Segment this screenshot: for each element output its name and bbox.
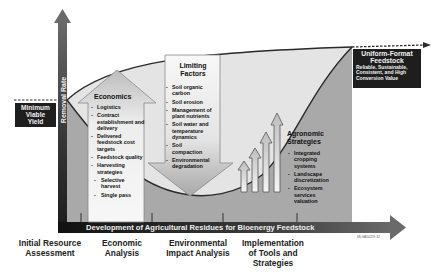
economics-item: Logistics: [91, 104, 147, 110]
agronomic-title: Agronomic Strategies: [287, 130, 324, 146]
limiting-factors-title: Limiting Factors: [168, 62, 218, 78]
limiting-title-line-2: Factors: [168, 70, 218, 78]
uniform-title-line-1: Uniform-Format: [353, 50, 421, 57]
stage-line: Implementation: [238, 238, 308, 248]
agronomic-title-line-2: Strategies: [287, 138, 324, 146]
limiting-factor-item: Management of plant nutrients: [166, 107, 221, 120]
uniform-format-feedstock-box: Uniform-Format Feedstock Reliable, Susta…: [353, 49, 421, 88]
limiting-title-line-1: Limiting: [168, 62, 218, 70]
minimum-yield-line-1: Minimum: [15, 104, 56, 111]
dotted-arrowhead: [423, 42, 431, 48]
stage-environmental-impact-analysis: Environmental Impact Analysis: [158, 238, 238, 258]
agronomic-item: Ecosystem services valuation: [288, 185, 328, 204]
limiting-factor-item: Soil compaction: [166, 142, 210, 155]
economics-item: Delivered feedstock cost targets: [91, 133, 147, 152]
economics-sub-item: Single pass: [91, 192, 147, 198]
y-axis-arrowhead: [54, 9, 71, 23]
y-axis-label: Removal Rate: [59, 77, 66, 123]
stage-line: Economic: [92, 238, 152, 248]
stage-line: of Tools and: [238, 248, 308, 258]
economics-item: Contract establishment and delivery: [91, 112, 147, 131]
stage-implementation: Implementation of Tools and Strategies: [238, 238, 308, 268]
economics-list: Logistics Contract establishment and del…: [91, 104, 147, 200]
stage-line: Assessment: [10, 248, 90, 258]
stage-line: Analysis: [92, 248, 152, 258]
stage-economic-analysis: Economic Analysis: [92, 238, 152, 258]
agronomic-item: Landscape discretization: [288, 171, 334, 184]
limiting-factor-item: Soil water and temperature dynamics: [166, 121, 218, 140]
x-axis-arrowhead: [390, 215, 406, 240]
stage-line: Impact Analysis: [158, 248, 238, 258]
x-axis-label: Development of Agricultural Residues for…: [86, 223, 314, 233]
limiting-factors-list: Soil organic carbon Soil erosion Managem…: [166, 84, 221, 172]
economics-title: Economics: [94, 93, 131, 100]
stage-line: Initial Resource: [10, 238, 90, 248]
stage-line: Environmental: [158, 238, 238, 248]
stage-line: Strategies: [238, 258, 308, 268]
uniform-subtitle-line-3: Conversion Value: [353, 76, 421, 82]
minimum-viable-yield-box: Minimum Viable Yield: [15, 103, 56, 127]
economics-sub-item: Selective harvest: [91, 177, 133, 190]
economics-item: Feedstock quality: [91, 154, 147, 160]
y-axis-shaft: [58, 22, 67, 233]
dotted-extension: [352, 45, 424, 47]
stage-initial-resource-assessment: Initial Resource Assessment: [10, 238, 90, 258]
limiting-factor-item: Environmental degradation: [166, 157, 218, 170]
limiting-factor-item: Soil erosion: [166, 99, 221, 105]
minimum-yield-line-2: Viable: [15, 111, 56, 118]
agronomic-title-line-1: Agronomic: [287, 130, 324, 138]
agronomic-list: Integrated cropping systems Landscape di…: [288, 150, 338, 206]
agronomic-item: Integrated cropping systems: [288, 150, 328, 169]
economics-item: Harvesting strategies: [91, 162, 147, 175]
limiting-factor-item: Soil organic carbon: [166, 84, 208, 97]
figure-code: 08-GA50259-32: [357, 235, 380, 239]
minimum-yield-line-3: Yield: [15, 118, 56, 125]
